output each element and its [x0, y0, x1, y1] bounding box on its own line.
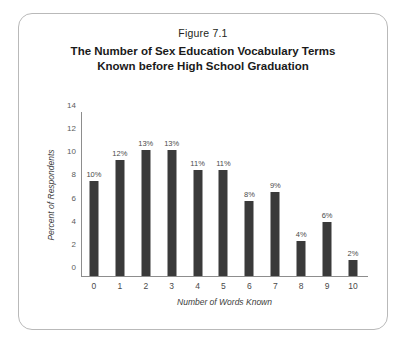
bar-value-label: 13%: [164, 139, 179, 148]
bar-value-label: 2%: [348, 249, 359, 258]
bar: [245, 201, 254, 276]
bar-group: 2%10: [340, 114, 366, 276]
bar-value-label: 13%: [138, 139, 153, 148]
x-axis-tick-label: 2: [143, 281, 148, 291]
bar-value-label: 10%: [86, 170, 101, 179]
bar-group: 11%4: [185, 114, 211, 276]
y-axis-tick-label: 14: [67, 101, 81, 110]
bar: [141, 150, 150, 276]
x-axis-tick-label: 5: [221, 281, 226, 291]
bar-group: 10%0: [81, 114, 107, 276]
y-axis-tick-label: 4: [72, 216, 81, 225]
y-axis-tick-label: 10: [67, 147, 81, 156]
x-axis-tick-label: 8: [299, 281, 304, 291]
bar-value-label: 11%: [216, 159, 230, 168]
bar: [115, 160, 124, 276]
bar: [323, 222, 332, 276]
x-axis-tick-label: 6: [247, 281, 252, 291]
bar-group: 9%7: [262, 114, 288, 276]
bar-value-label: 11%: [190, 159, 204, 168]
x-axis-tick-label: 10: [348, 281, 357, 291]
x-axis-tick-label: 7: [273, 281, 278, 291]
bar: [193, 170, 202, 276]
y-axis-tick-label: 6: [72, 193, 81, 202]
y-axis-title: Percent of Respondents: [45, 114, 57, 276]
chart-title: The Number of Sex Education Vocabulary T…: [19, 44, 387, 74]
bar: [89, 181, 98, 276]
x-axis-tick-label: 1: [117, 281, 122, 291]
y-axis-tick-label: 0: [72, 263, 81, 272]
x-axis-tick-label: 9: [325, 281, 330, 291]
plot-area: 0246810121410%012%113%213%311%411%58%69%…: [81, 114, 366, 276]
x-axis-tick-label: 4: [195, 281, 200, 291]
bar-group: 12%1: [107, 114, 133, 276]
bar-value-label: 4%: [296, 230, 307, 239]
chart-title-line-1: The Number of Sex Education Vocabulary T…: [19, 44, 387, 59]
bar-value-label: 8%: [244, 190, 255, 199]
y-axis-tick-label: 8: [72, 170, 81, 179]
bar: [271, 192, 280, 276]
bar: [297, 241, 306, 276]
y-axis-tick-label: 12: [67, 124, 81, 133]
bar: [349, 260, 358, 276]
bar: [219, 170, 228, 276]
bar-group: 11%5: [211, 114, 237, 276]
bar-group: 13%3: [159, 114, 185, 276]
figure-frame: Figure 7.1 The Number of Sex Education V…: [18, 13, 388, 330]
x-axis-tick-label: 0: [92, 281, 97, 291]
x-axis-title: Number of Words Known: [81, 297, 368, 307]
bar-value-label: 6%: [322, 211, 333, 220]
x-axis-line: [81, 276, 368, 277]
y-axis-tick-label: 2: [72, 239, 81, 248]
bar-group: 6%9: [314, 114, 340, 276]
chart-title-line-2: Known before High School Graduation: [19, 59, 387, 74]
bar-value-label: 12%: [112, 149, 127, 158]
bar-value-label: 9%: [270, 181, 281, 190]
bar-group: 8%6: [236, 114, 262, 276]
x-axis-tick-label: 3: [169, 281, 174, 291]
bar: [167, 150, 176, 276]
figure-number: Figure 7.1: [19, 27, 387, 39]
bar-group: 13%2: [133, 114, 159, 276]
bar-group: 4%8: [288, 114, 314, 276]
